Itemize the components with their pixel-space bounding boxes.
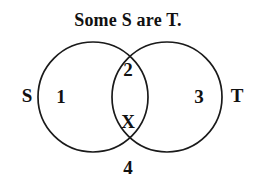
set-label-s: S [14,86,40,105]
region-label-x: X [115,112,141,131]
set-label-t: T [224,86,250,105]
venn-diagram-figure: Some S are T. S 1 2 X 3 T 4 [0,0,256,183]
region-label-1: 1 [48,87,74,106]
region-label-2: 2 [115,60,141,79]
region-label-4: 4 [115,158,141,177]
region-label-3: 3 [186,87,212,106]
